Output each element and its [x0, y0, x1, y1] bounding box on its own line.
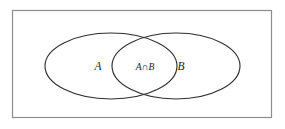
intersection-label-set-b: B [148, 61, 154, 72]
intersection-operator-icon: ∩ [142, 61, 149, 72]
set-b-label: B [177, 60, 184, 72]
venn-diagram-canvas: A B A∩B [0, 0, 285, 129]
venn-diagram-figure: A B A∩B [0, 0, 285, 129]
set-a-label: A [93, 60, 102, 72]
intersection-label: A∩B [135, 61, 155, 72]
